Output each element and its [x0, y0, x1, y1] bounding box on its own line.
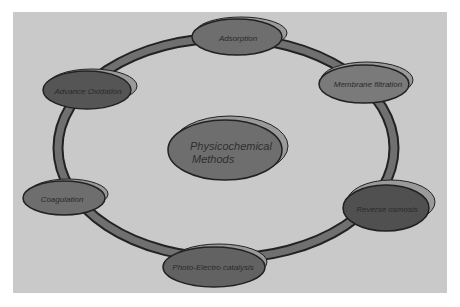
node-coagulation[interactable]: Coagulation [23, 179, 108, 215]
node-label: Photo-Electro catalysis [172, 263, 253, 272]
node-label: Coagulation [41, 195, 84, 204]
node-label: Advance Oxidation [53, 87, 122, 96]
node-reverse-osmosis[interactable]: Reverse osmosis [343, 180, 435, 231]
node-advance-oxidation[interactable]: Advance Oxidation [43, 69, 137, 109]
center-label-line2: Methods [192, 153, 235, 165]
node-label: Membrane filtration [334, 80, 403, 89]
node-membrane-filtration[interactable]: Membrane filtration [319, 62, 413, 103]
cycle-diagram: Physicochemical Methods Adsorption Membr… [0, 0, 460, 307]
center-label-line1: Physicochemical [190, 140, 272, 152]
center-node: Physicochemical Methods [168, 116, 288, 180]
node-adsorption[interactable]: Adsorption [192, 17, 287, 55]
node-label: Reverse osmosis [356, 205, 417, 214]
node-label: Adsorption [218, 34, 258, 43]
